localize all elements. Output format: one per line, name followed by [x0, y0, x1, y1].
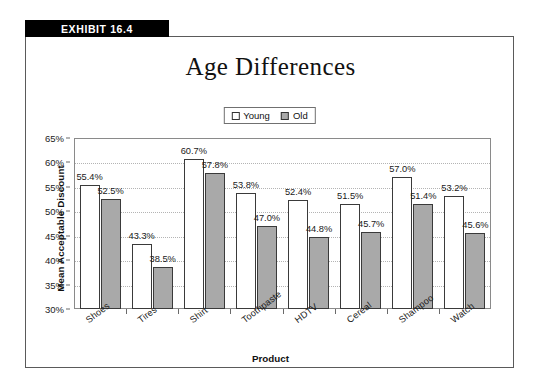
legend-item-old: Old	[281, 110, 308, 121]
y-tick-label: 65%	[45, 133, 64, 144]
x-axis-category-labels: ShoesTiresShirtToothpasteHDTVCerealShamp…	[74, 309, 491, 355]
y-tick-mark	[66, 138, 70, 139]
legend-label-old: Old	[293, 110, 308, 121]
x-category-label-shirt: Shirt	[188, 305, 210, 325]
legend-swatch-young	[231, 112, 239, 120]
y-tick-mark	[66, 186, 70, 187]
chart-legend: Young Old	[223, 107, 315, 124]
y-tick-mark	[66, 162, 70, 163]
gridline	[75, 237, 490, 238]
gridline	[75, 163, 490, 164]
exhibit-frame: EXHIBIT 16.4 Age Differences Young Old 6…	[25, 20, 514, 368]
chart-title: Age Differences	[26, 53, 515, 81]
gridline	[75, 188, 490, 189]
legend-label-young: Young	[243, 110, 270, 121]
gridline	[75, 286, 490, 287]
exhibit-banner-label: EXHIBIT 16.4	[25, 20, 169, 37]
y-tick-mark	[66, 211, 70, 212]
plot-area	[74, 138, 491, 309]
y-tick-mark	[66, 260, 70, 261]
gridline	[75, 261, 490, 262]
y-tick-mark	[66, 235, 70, 236]
legend-item-young: Young	[231, 110, 270, 121]
legend-swatch-old	[281, 112, 289, 120]
gridline	[75, 212, 490, 213]
chart-container: Age Differences Young Old 65%60%55%50%45…	[25, 36, 514, 368]
x-axis-title: Product	[26, 353, 515, 364]
y-axis-title: Mean Acceptable Discount	[55, 149, 66, 309]
y-tick-mark	[66, 284, 70, 285]
y-tick-mark	[66, 309, 70, 310]
